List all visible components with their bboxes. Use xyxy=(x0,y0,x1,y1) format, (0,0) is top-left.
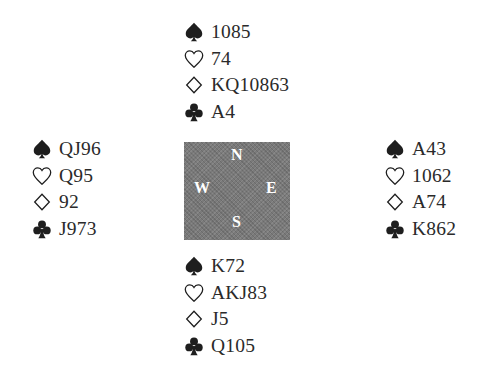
east-hearts-row: 1062 xyxy=(384,163,456,190)
heart-outline-icon xyxy=(183,282,205,304)
club-icon xyxy=(31,218,53,240)
west-hand: QJ96 Q95 92 J973 xyxy=(31,136,101,242)
compass-east-label: E xyxy=(266,180,277,196)
north-clubs: A4 xyxy=(211,99,235,126)
south-clubs: Q105 xyxy=(211,333,255,360)
diamond-outline-icon xyxy=(384,191,406,213)
west-clubs-row: J973 xyxy=(31,216,101,243)
spade-icon xyxy=(31,138,53,160)
south-spades: K72 xyxy=(211,253,245,280)
east-hearts: 1062 xyxy=(412,163,452,190)
east-clubs-row: K862 xyxy=(384,216,456,243)
heart-outline-icon xyxy=(31,165,53,187)
east-spades: A43 xyxy=(412,136,446,163)
east-diamonds: A74 xyxy=(412,189,446,216)
east-hand: A43 1062 A74 K862 xyxy=(384,136,456,242)
west-spades-row: QJ96 xyxy=(31,136,101,163)
north-hand: 1085 74 KQ10863 A4 xyxy=(183,19,289,125)
heart-outline-icon xyxy=(384,165,406,187)
east-diamonds-row: A74 xyxy=(384,189,456,216)
north-clubs-row: A4 xyxy=(183,99,289,126)
spade-icon xyxy=(384,138,406,160)
compass-north-label: N xyxy=(231,147,243,163)
west-hearts: Q95 xyxy=(59,163,93,190)
diamond-outline-icon xyxy=(183,308,205,330)
club-icon xyxy=(183,335,205,357)
north-hearts-row: 74 xyxy=(183,46,289,73)
south-hearts: AKJ83 xyxy=(211,280,267,307)
diamond-outline-icon xyxy=(183,74,205,96)
west-spades: QJ96 xyxy=(59,136,101,163)
club-icon xyxy=(384,218,406,240)
compass-box: N W E S xyxy=(184,142,290,240)
compass-south-label: S xyxy=(232,214,241,230)
south-diamonds-row: J5 xyxy=(183,306,267,333)
heart-outline-icon xyxy=(183,48,205,70)
south-clubs-row: Q105 xyxy=(183,333,267,360)
west-diamonds: 92 xyxy=(59,189,79,216)
west-diamonds-row: 92 xyxy=(31,189,101,216)
south-hand: K72 AKJ83 J5 Q105 xyxy=(183,253,267,359)
east-clubs: K862 xyxy=(412,216,456,243)
north-spades-row: 1085 xyxy=(183,19,289,46)
south-diamonds: J5 xyxy=(211,306,229,333)
west-clubs: J973 xyxy=(59,216,97,243)
spade-icon xyxy=(183,255,205,277)
south-hearts-row: AKJ83 xyxy=(183,280,267,307)
diamond-outline-icon xyxy=(31,191,53,213)
north-diamonds-row: KQ10863 xyxy=(183,72,289,99)
spade-icon xyxy=(183,21,205,43)
east-spades-row: A43 xyxy=(384,136,456,163)
north-diamonds: KQ10863 xyxy=(211,72,289,99)
north-spades: 1085 xyxy=(211,19,251,46)
south-spades-row: K72 xyxy=(183,253,267,280)
west-hearts-row: Q95 xyxy=(31,163,101,190)
compass-west-label: W xyxy=(194,180,210,196)
north-hearts: 74 xyxy=(211,46,231,73)
club-icon xyxy=(183,101,205,123)
